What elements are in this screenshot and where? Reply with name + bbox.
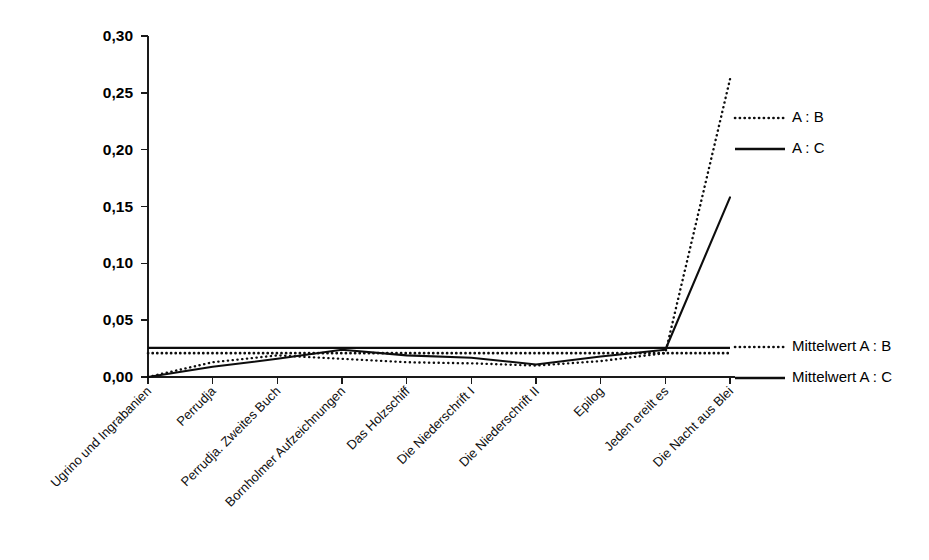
legend-series-item[interactable]: A : C bbox=[735, 139, 825, 156]
legend-series-item[interactable]: A : B bbox=[735, 108, 824, 125]
x-axis-tick-labels: Ugrino und IngrabanienPerrudjaPerrudja. … bbox=[47, 383, 736, 510]
legend-series: A : BA : C bbox=[735, 108, 825, 156]
x-axis-tick-label: Perrudja bbox=[173, 383, 219, 429]
legend-mean-label: Mittelwert A : C bbox=[792, 368, 892, 385]
y-axis-tick-label: 0,15 bbox=[103, 198, 134, 215]
y-axis-tick-label: 0,20 bbox=[103, 141, 133, 158]
legend-mean-item[interactable]: Mittelwert A : C bbox=[735, 368, 892, 385]
legend-mean-item[interactable]: Mittelwert A : B bbox=[735, 337, 891, 354]
series-line-a-c bbox=[148, 197, 730, 377]
x-axis: Ugrino und IngrabanienPerrudjaPerrudja. … bbox=[47, 377, 736, 510]
y-axis-tick-label: 0,10 bbox=[103, 254, 133, 271]
series-line-a-b bbox=[148, 79, 730, 377]
line-chart: 0,000,050,100,150,200,250,30 Ugrino und … bbox=[0, 0, 929, 560]
plot-series-group bbox=[148, 79, 730, 377]
y-axis-ticks bbox=[141, 36, 148, 377]
x-axis-ticks bbox=[148, 377, 730, 384]
x-axis-tick-label: Epilog bbox=[571, 384, 607, 420]
legend-series-label: A : C bbox=[792, 139, 825, 156]
x-axis-tick-label: Jeden ereilt es bbox=[601, 383, 672, 454]
legend-mean-label: Mittelwert A : B bbox=[792, 337, 891, 354]
legend-series-label: A : B bbox=[792, 108, 824, 125]
x-axis-tick-label: Das Holzschiff bbox=[344, 383, 413, 452]
y-axis-tick-label: 0,05 bbox=[103, 311, 134, 328]
y-axis: 0,000,050,100,150,200,250,30 bbox=[103, 27, 148, 385]
chart-container: 0,000,050,100,150,200,250,30 Ugrino und … bbox=[0, 0, 929, 560]
y-axis-tick-label: 0,00 bbox=[103, 368, 133, 385]
legend-means: Mittelwert A : BMittelwert A : C bbox=[735, 337, 892, 385]
x-axis-tick-label: Bornholmer Aufzeichnungen bbox=[222, 384, 348, 510]
y-axis-tick-label: 0,25 bbox=[103, 84, 134, 101]
x-axis-tick-label: Ugrino und Ingrabanien bbox=[47, 384, 154, 491]
y-axis-tick-labels: 0,000,050,100,150,200,250,30 bbox=[103, 27, 134, 385]
y-axis-tick-label: 0,30 bbox=[103, 27, 133, 44]
